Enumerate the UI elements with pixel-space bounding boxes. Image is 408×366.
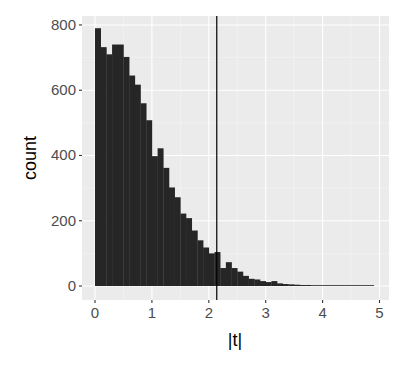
histogram-bar [368,285,374,286]
x-axis: 012345 [91,300,384,321]
y-tick-label: 600 [51,81,76,98]
y-axis-title: count [20,136,40,180]
histogram-bar [328,285,334,286]
histogram-bar [340,285,346,286]
histogram-bar [180,214,186,286]
histogram-bar [135,85,141,286]
histogram-bar [243,276,249,286]
histogram-bar [311,285,317,286]
histogram-bar [101,47,107,286]
histogram-bar [254,279,260,286]
histogram-bar [95,28,101,286]
histogram-chart: 0200400600800 012345 |t| count [0,0,408,366]
histogram-bar [152,156,158,286]
histogram-bar [123,57,129,286]
x-axis-title: |t| [228,330,242,350]
histogram-bar [197,240,203,286]
histogram-bar [260,281,266,286]
histogram-bar [186,218,192,286]
histogram-bar [362,285,368,286]
x-tick-label: 4 [318,304,326,321]
histogram-bar [249,279,255,286]
histogram-bar [294,285,300,286]
histogram-bar [158,148,164,286]
histogram-bar [118,45,124,286]
y-tick-label: 800 [51,16,76,33]
histogram-bar [323,285,329,286]
histogram-bar [283,284,289,286]
histogram-bar [334,285,340,286]
histogram-bar [169,187,175,286]
histogram-bar [192,231,198,286]
histogram-bar [163,168,169,286]
histogram-bar [300,285,306,286]
histogram-bar [317,285,323,286]
y-axis: 0200400600800 [51,16,82,294]
histogram-bar [351,285,357,286]
histogram-bar [146,120,152,286]
x-tick-label: 5 [375,304,383,321]
histogram-bar [112,45,118,286]
histogram-bar [232,268,238,286]
y-tick-label: 200 [51,212,76,229]
y-tick-label: 0 [68,277,76,294]
histogram-bar [266,282,272,286]
histogram-bar [306,285,312,286]
histogram-bar [106,54,112,286]
histogram-bar [277,283,283,286]
histogram-bar [129,76,135,286]
histogram-bar [345,285,351,286]
x-tick-label: 1 [148,304,156,321]
histogram-bar [357,285,363,286]
histogram-bar [141,103,147,286]
histogram-bar [220,268,226,286]
x-tick-label: 3 [262,304,270,321]
x-tick-label: 2 [205,304,213,321]
histogram-bar [271,281,277,286]
x-tick-label: 0 [91,304,99,321]
histogram-bar [288,284,294,286]
histogram-bar [203,247,209,286]
histogram-bar [237,272,243,286]
histogram-bar [214,252,220,286]
histogram-bar [226,262,232,286]
y-tick-label: 400 [51,146,76,163]
histogram-bar [175,197,181,286]
histogram-bar [209,253,215,286]
